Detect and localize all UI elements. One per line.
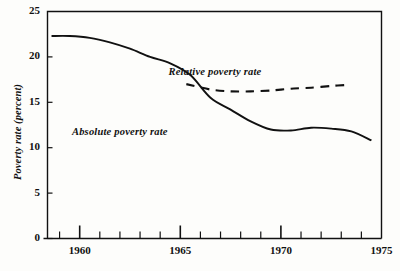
x-tick-label: 1965 [160,244,200,256]
y-tick-label: 20 [16,49,40,61]
x-axis-ticks [60,226,362,239]
data-series-group [52,36,372,141]
y-tick-label: 5 [16,186,40,198]
label-relative-poverty-rate: Relative poverty rate [169,66,262,77]
label-absolute-poverty-rate: Absolute poverty rate [72,126,168,137]
chart-canvas [0,0,400,271]
y-tick-label: 15 [16,95,40,107]
x-tick-label: 1975 [362,244,400,256]
y-axis-ticks [48,57,53,239]
y-tick-label: 0 [16,231,40,243]
y-tick-label: 10 [16,140,40,152]
series-line-absolute [52,36,372,141]
poverty-rate-chart: Poverty rate (percent) 0510152025 196019… [0,0,400,271]
y-tick-label: 25 [16,4,40,16]
x-tick-label: 1970 [261,244,301,256]
x-tick-label: 1960 [60,244,100,256]
plot-frame [44,12,382,239]
series-line-relative [186,84,345,91]
